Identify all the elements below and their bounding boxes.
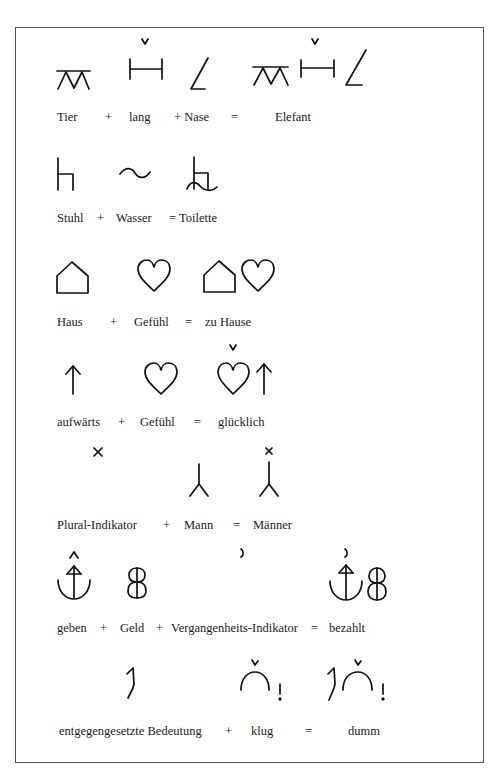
term-elefant: Elefant xyxy=(275,110,311,124)
plural-indicator-symbol-icon xyxy=(92,446,104,458)
paid-symbol-icon xyxy=(328,547,390,603)
term-vergangenheits-indikator: Vergangenheits-Indikator xyxy=(171,621,298,635)
equals-operator: = xyxy=(233,518,240,532)
plus-operator: + xyxy=(118,415,125,429)
at-home-symbol-icon xyxy=(202,259,278,295)
equals-operator: = xyxy=(311,621,318,635)
term-bezahlt: bezahlt xyxy=(329,621,365,635)
plus-operator: + xyxy=(97,211,104,225)
term-wasser: Wasser xyxy=(116,211,152,225)
happy-symbol-icon xyxy=(216,342,274,396)
plus-operator: + xyxy=(225,724,232,738)
elephant-symbol-icon xyxy=(252,35,372,89)
nose-symbol-icon xyxy=(188,56,212,92)
opposite-meaning-symbol-icon xyxy=(124,666,142,702)
upward-arrow-symbol-icon xyxy=(64,364,82,396)
animal-symbol-icon xyxy=(56,68,92,92)
water-symbol-icon xyxy=(118,166,152,182)
term-aufwaerts: aufwärts xyxy=(57,415,100,429)
term-gefuehl: Gefühl xyxy=(140,415,175,429)
term-lang: lang xyxy=(129,110,151,124)
toilet-symbol-icon xyxy=(184,155,220,193)
men-symbol-icon xyxy=(258,446,280,498)
term-geld: Geld xyxy=(120,621,144,635)
term-zu-hause: zu Hause xyxy=(205,315,251,329)
term-nase: + Nase xyxy=(174,110,209,124)
clever-symbol-icon xyxy=(238,658,288,700)
past-tense-indicator-symbol-icon xyxy=(238,547,246,559)
term-maenner: Männer xyxy=(253,518,292,532)
equals-operator: = xyxy=(185,315,192,329)
plus-operator: + xyxy=(105,110,112,124)
term-entgegengesetzte-bedeutung: entgegengesetzte Bedeutung xyxy=(59,724,202,738)
term-stuhl: Stuhl xyxy=(57,211,83,225)
stupid-symbol-icon xyxy=(325,658,395,704)
house-symbol-icon xyxy=(55,260,91,296)
plus-operator: + xyxy=(163,518,170,532)
chair-symbol-icon xyxy=(56,156,76,192)
equals-operator: = xyxy=(231,110,238,124)
term-gluecklich: glücklich xyxy=(218,415,265,429)
term-gefuehl: Gefühl xyxy=(134,315,169,329)
heart-symbol-icon xyxy=(136,259,172,293)
equals-operator: = xyxy=(194,415,201,429)
term-haus: Haus xyxy=(57,315,83,329)
term-geben: geben xyxy=(57,621,87,635)
equals-operator: = xyxy=(305,724,312,738)
term-tier: Tier xyxy=(57,110,77,124)
term-mann: Mann xyxy=(184,518,213,532)
term-klug: klug xyxy=(251,724,273,738)
plus-operator: + xyxy=(100,621,107,635)
plus-operator: + xyxy=(156,621,163,635)
money-symbol-icon xyxy=(126,566,148,600)
man-symbol-icon xyxy=(188,462,210,498)
term-plural-indikator: Plural-Indikator xyxy=(57,518,137,532)
term-toilette: = Toilette xyxy=(169,211,217,225)
give-symbol-icon xyxy=(56,550,92,602)
heart-symbol-icon xyxy=(143,362,179,396)
plus-operator: + xyxy=(110,315,117,329)
long-symbol-icon xyxy=(128,35,164,85)
term-dumm: dumm xyxy=(348,724,380,738)
